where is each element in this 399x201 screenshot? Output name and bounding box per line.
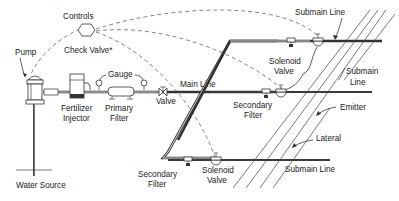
label-secondary-mid-2: Filter xyxy=(244,111,262,120)
submain-top-arrow xyxy=(335,18,342,38)
label-fertilizer-2: Injector xyxy=(63,114,90,123)
label-valve: Valve xyxy=(156,97,176,106)
arrowhead-icon xyxy=(23,73,27,77)
label-check-valve: Check Valve* xyxy=(64,46,113,55)
label-primary-1: Primary xyxy=(105,104,134,113)
solenoid-valve-mid-icon xyxy=(276,85,286,97)
label-submain-mid-2: Line xyxy=(350,78,366,87)
label-primary-2: Filter xyxy=(110,114,128,123)
label-solenoid-top-2: Valve xyxy=(274,67,294,76)
secondary-filter-mid-icon xyxy=(262,89,270,98)
label-solenoid-top-1: Solenoid xyxy=(269,57,301,66)
label-submain-low: Submain Line xyxy=(285,165,336,174)
label-lateral: Lateral xyxy=(316,134,341,143)
primary-filter-icon xyxy=(108,87,134,99)
solenoid-valve-top-icon xyxy=(313,34,323,46)
label-fertilizer-1: Fertilizer xyxy=(61,104,93,113)
lateral-lines xyxy=(233,10,395,188)
valve-icon xyxy=(159,87,167,96)
label-emitter: Emitter xyxy=(340,103,366,112)
fertilizer-injector-icon xyxy=(70,74,90,98)
label-secondary-mid-1: Secondary xyxy=(233,101,273,110)
label-main-line: Main Line xyxy=(180,80,216,89)
label-water-source: Water Source xyxy=(16,181,66,190)
secondary-filter-low-icon xyxy=(184,157,192,166)
gauge-arrow-right xyxy=(135,75,143,80)
label-pump: Pump xyxy=(15,48,37,57)
pump-icon xyxy=(26,76,44,104)
label-secondary-low-1: Secondary xyxy=(138,170,178,179)
label-controls: Controls xyxy=(63,12,94,21)
submain-mid-pointer xyxy=(339,68,345,80)
gauge-arrow-left xyxy=(100,75,106,80)
irrigation-diagram: Controls Check Valve* Pump Water Source … xyxy=(0,0,399,201)
gauge-2-icon xyxy=(141,80,147,90)
label-solenoid-low-2: Valve xyxy=(207,176,227,185)
controls-icon xyxy=(78,24,95,36)
label-secondary-low-2: Filter xyxy=(148,180,166,189)
solenoid-valve-low-icon xyxy=(211,153,221,165)
control-wire-top-solenoid xyxy=(96,10,318,36)
gauge-1-icon xyxy=(96,80,102,90)
label-submain-top: Submain Line xyxy=(295,8,346,17)
main-branch-diagonal xyxy=(163,41,278,158)
secondary-filter-top-icon xyxy=(287,38,295,47)
label-solenoid-low-1: Solenoid xyxy=(202,166,234,175)
label-gauge: Gauge xyxy=(108,70,133,79)
